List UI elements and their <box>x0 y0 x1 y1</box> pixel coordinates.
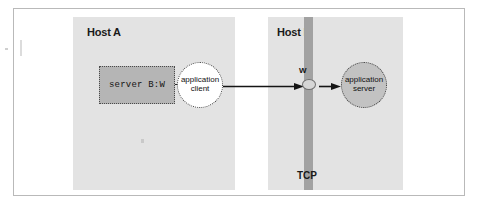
server-binding-label: server B:W <box>109 80 165 90</box>
host-a-label: Host A <box>87 26 121 38</box>
diagram-figure: Host A server B:W application client Hos… <box>0 0 481 204</box>
scan-speckle <box>20 40 22 56</box>
server-binding-box: server B:W <box>99 66 175 104</box>
scan-speckle <box>141 139 144 143</box>
scan-speckle <box>5 48 8 50</box>
host-b-panel <box>268 17 403 190</box>
tcp-bar <box>304 17 313 190</box>
application-client-node: application client <box>177 62 223 108</box>
tcp-label: TCP <box>297 170 317 181</box>
application-server-label-line2: server <box>353 85 375 94</box>
port-to-server-arrow-icon <box>319 83 341 90</box>
port-w-label: W <box>299 66 307 75</box>
application-client-label-line2: client <box>191 85 210 94</box>
client-to-port-arrow-icon <box>223 83 304 90</box>
application-server-node: application server <box>341 62 387 108</box>
port-w-node <box>302 79 316 90</box>
